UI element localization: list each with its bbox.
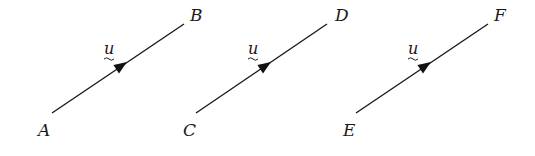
vector-ab: u A B bbox=[36, 5, 203, 140]
arrowhead-icon bbox=[257, 58, 273, 74]
vector-label-u: u bbox=[248, 39, 258, 58]
point-label-f: F bbox=[493, 5, 507, 25]
vector-diagram: u A B u C D u E F bbox=[0, 0, 535, 156]
point-label-b: B bbox=[189, 5, 203, 25]
point-label-d: D bbox=[334, 5, 349, 25]
arrowhead-icon bbox=[113, 58, 129, 74]
vector-cd: u C D bbox=[183, 5, 349, 140]
vector-ef: u E F bbox=[342, 5, 507, 140]
vector-label-u: u bbox=[408, 39, 418, 58]
tilde-underline-icon bbox=[408, 58, 418, 61]
tilde-underline-icon bbox=[104, 58, 114, 61]
vector-label-u: u bbox=[104, 39, 114, 58]
arrowhead-icon bbox=[417, 58, 433, 74]
point-label-a: A bbox=[36, 120, 50, 140]
point-label-c: C bbox=[183, 120, 196, 140]
point-label-e: E bbox=[342, 120, 356, 140]
tilde-underline-icon bbox=[248, 58, 258, 61]
